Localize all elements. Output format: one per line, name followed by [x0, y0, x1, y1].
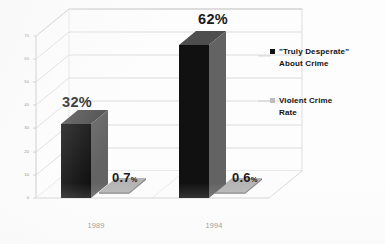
chart-legend: "Truly Desperate" About Crime Violent Cr… [270, 46, 385, 144]
data-label-desperate-1989: 32% [42, 94, 112, 110]
legend-marker-gray-square [270, 98, 275, 103]
legend-label-violent-crime-rate-line2: Rate [279, 108, 297, 117]
bar-truly-desperate-1994 [179, 31, 226, 198]
legend-label-truly-desperate-line1: "Truly Desperate" [279, 47, 349, 56]
legend-label-truly-desperate-line2: About Crime [279, 59, 329, 68]
data-label-violent-1989: 0.7% [112, 170, 172, 185]
data-label-violent-1989-percent: % [131, 175, 138, 184]
data-label-violent-1994-percent: % [251, 175, 258, 184]
x-category-label-1994: 1994 [184, 221, 244, 230]
y-tick-label-40: 40 [15, 102, 29, 107]
data-label-violent-1994-number: 0.6 [232, 170, 251, 185]
legend-item-truly-desperate[interactable]: "Truly Desperate" About Crime [270, 46, 385, 69]
legend-label-truly-desperate: "Truly Desperate" About Crime [279, 46, 349, 69]
y-tick-label-70: 70 [15, 33, 29, 38]
y-tick-label-50: 50 [15, 79, 29, 84]
y-tick-label-0: 0 [15, 195, 29, 200]
data-label-violent-1994: 0.6% [232, 170, 292, 185]
data-label-violent-1989-number: 0.7 [112, 170, 131, 185]
y-tick-label-20: 20 [15, 149, 29, 154]
y-tick-label-60: 60 [15, 56, 29, 61]
legend-item-violent-crime-rate[interactable]: Violent Crime Rate [270, 95, 385, 118]
y-tick-label-30: 30 [15, 125, 29, 130]
y-tick-label-10: 10 [15, 172, 29, 177]
bar-truly-desperate-1989 [61, 110, 108, 198]
x-category-label-1989: 1989 [66, 221, 126, 230]
data-label-desperate-1994: 62% [178, 11, 248, 27]
chart-screenshot: 70 60 50 40 30 20 10 0 1989 1994 32% 62%… [0, 0, 385, 244]
legend-label-violent-crime-rate-line1: Violent Crime [279, 96, 332, 105]
legend-marker-black-square [270, 49, 275, 54]
legend-label-violent-crime-rate: Violent Crime Rate [279, 95, 332, 118]
